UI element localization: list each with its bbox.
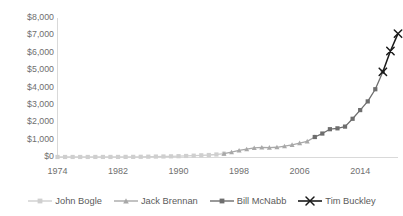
y-axis-tick-label: $0 [0, 152, 54, 161]
x-axis-tick-label: 1982 [98, 166, 138, 176]
diamond-marker [131, 155, 135, 159]
x-axis-tick-label: 1974 [38, 166, 78, 176]
diamond-marker [199, 153, 203, 157]
diamond-marker [55, 155, 59, 159]
y-axis-tick-label: $5,000 [0, 65, 54, 74]
y-axis-tick-label: $6,000 [0, 48, 54, 57]
square-marker [373, 87, 377, 91]
series-tim-buckley [379, 30, 402, 76]
series-bill-mcnabb [313, 70, 385, 139]
square-marker [313, 135, 317, 139]
diamond-marker [71, 155, 75, 159]
x-marker [297, 195, 323, 207]
legend-item-jack-brennan[interactable]: Jack Brennan [113, 195, 198, 207]
diamond-marker [27, 195, 53, 207]
legend-item-bill-mcnabb[interactable]: Bill McNabb [209, 195, 287, 207]
diamond-marker [146, 155, 150, 159]
diamond-marker [124, 155, 128, 159]
square-marker [209, 195, 235, 207]
x-marker [379, 68, 386, 75]
y-axis-tick-label: $8,000 [0, 13, 54, 22]
series-line [315, 72, 383, 137]
square-marker [320, 131, 324, 135]
y-axis-tick-label: $2,000 [0, 117, 54, 126]
legend-label: Jack Brennan [141, 196, 198, 207]
diamond-marker [207, 153, 211, 157]
axis-lines [58, 18, 399, 158]
diamond-marker [154, 154, 158, 158]
diamond-marker [93, 155, 97, 159]
diamond-marker [184, 154, 188, 158]
plot-area [0, 0, 403, 216]
y-axis-tick-label: $3,000 [0, 100, 54, 109]
y-axis-tick-label: $4,000 [0, 83, 54, 92]
diamond-marker [169, 154, 173, 158]
x-axis-tick-label: 1998 [219, 166, 259, 176]
x-marker [387, 47, 394, 54]
diamond-marker [214, 152, 218, 156]
series-jack-brennan [221, 135, 317, 156]
y-axis-tick-label: $1,000 [0, 135, 54, 144]
diamond-marker [101, 155, 105, 159]
diamond-marker [86, 155, 90, 159]
x-axis-tick-label: 1990 [159, 166, 199, 176]
diamond-marker [108, 155, 112, 159]
square-marker [343, 124, 347, 128]
square-marker [335, 126, 339, 130]
legend-label: Tim Buckley [325, 196, 375, 207]
chart-container: $0$1,000$2,000$3,000$4,000$5,000$6,000$7… [0, 0, 403, 216]
square-marker [366, 99, 370, 103]
legend-item-tim-buckley[interactable]: Tim Buckley [297, 195, 375, 207]
legend-label: Bill McNabb [237, 196, 287, 207]
series-layer [55, 30, 401, 159]
triangle-marker [113, 195, 139, 207]
diamond-marker [116, 155, 120, 159]
diamond-marker [139, 155, 143, 159]
diamond-marker [78, 155, 82, 159]
legend-item-john-bogle[interactable]: John Bogle [27, 195, 102, 207]
diamond-marker [161, 154, 165, 158]
y-axis-tick-label: $7,000 [0, 30, 54, 39]
diamond-marker [63, 155, 67, 159]
diamond-marker [192, 154, 196, 158]
square-marker [351, 117, 355, 121]
chart-legend: John BogleJack BrennanBill McNabbTim Buc… [0, 192, 403, 210]
square-marker [358, 108, 362, 112]
x-marker [394, 30, 401, 37]
series-line [383, 34, 398, 72]
x-axis-tick-label: 2006 [280, 166, 320, 176]
x-axis-tick-label: 2014 [340, 166, 380, 176]
diamond-marker [38, 199, 43, 204]
diamond-marker [176, 154, 180, 158]
square-marker [328, 127, 332, 131]
square-marker [219, 199, 224, 204]
legend-label: John Bogle [55, 196, 102, 207]
